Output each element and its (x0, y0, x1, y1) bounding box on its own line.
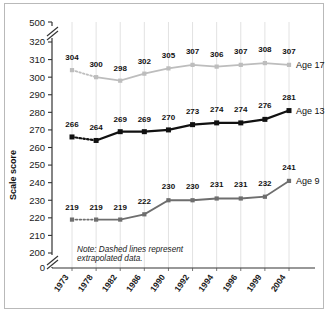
data-point-marker (70, 68, 74, 72)
data-point-marker (142, 212, 146, 216)
axis-break (47, 26, 58, 40)
y-tick-label-220: 220 (29, 212, 45, 223)
y-axis-title: Scale score (8, 150, 18, 200)
data-point-marker (118, 217, 122, 221)
data-point-label: 276 (258, 101, 272, 110)
data-point-marker (166, 127, 171, 132)
data-point-label: 300 (89, 60, 103, 69)
data-point-label: 304 (65, 53, 79, 62)
data-point-label: 230 (162, 182, 176, 191)
data-point-label: 231 (234, 180, 248, 189)
y-tick-label-310: 310 (29, 54, 45, 65)
y-tick-label-250: 250 (29, 159, 45, 170)
data-point-marker (118, 79, 122, 83)
line-chart: 2002102202302402502602702802903003103205… (0, 0, 330, 314)
data-point-label: 269 (114, 115, 128, 124)
data-point-label: 308 (258, 45, 272, 54)
data-point-marker (239, 63, 243, 67)
x-tick-label-1996: 1996 (220, 272, 239, 293)
x-tick-label-1986: 1986 (124, 272, 143, 293)
y-tick-label-300: 300 (29, 72, 45, 83)
data-point-marker (215, 196, 219, 200)
data-point-label: 305 (162, 51, 176, 60)
data-point-marker (190, 198, 194, 202)
series-dashed-segment (72, 70, 96, 77)
data-point-label: 281 (282, 93, 296, 102)
data-point-marker (142, 129, 147, 134)
y-tick-label-200: 200 (29, 247, 45, 258)
x-tick-label-1992: 1992 (172, 272, 191, 293)
chart-note-line-1: Note: Dashed lines represent (77, 245, 184, 254)
series-age-17: 304300298302305307306307308307Age 17 (65, 45, 324, 83)
data-point-marker (166, 198, 170, 202)
x-tick-label-1999: 1999 (244, 272, 263, 293)
data-point-marker (190, 122, 195, 127)
y-tick-label-320: 320 (29, 36, 45, 47)
data-point-marker (215, 65, 219, 69)
data-point-label: 302 (138, 57, 152, 66)
data-point-label: 306 (210, 50, 224, 59)
data-point-marker (287, 63, 291, 67)
y-tick-label-280: 280 (29, 107, 45, 118)
data-point-label: 274 (210, 105, 224, 114)
series-legend-label: Age 9 (296, 176, 320, 186)
y-tick-label-500: 500 (29, 17, 45, 28)
data-point-marker (94, 75, 98, 79)
y-tick-label-210: 210 (29, 230, 45, 241)
data-point-marker (287, 179, 291, 183)
data-point-label: 307 (234, 47, 248, 56)
data-point-label: 222 (138, 197, 152, 206)
axis-break (47, 255, 58, 269)
data-point-marker (214, 120, 219, 125)
data-point-label: 219 (114, 203, 128, 212)
data-point-label: 230 (186, 182, 200, 191)
data-point-marker (287, 108, 292, 113)
y-tick-label-270: 270 (29, 124, 45, 135)
y-tick-label-290: 290 (29, 89, 45, 100)
data-point-marker (94, 217, 98, 221)
data-point-marker (142, 72, 146, 76)
x-tick-label-1978: 1978 (76, 272, 95, 293)
data-point-marker (263, 195, 267, 199)
x-tick-label-1982: 1982 (100, 272, 119, 293)
data-point-label: 270 (162, 113, 176, 122)
data-point-label: 232 (258, 179, 272, 188)
x-tick-label-1973: 1973 (52, 272, 71, 293)
data-point-label: 274 (234, 105, 248, 114)
data-point-label: 219 (65, 203, 79, 212)
data-point-marker (263, 61, 267, 65)
series-age-13: 266264269269270273274274276281Age 13 (65, 93, 324, 143)
x-tick-label-1990: 1990 (148, 272, 167, 293)
data-point-marker (70, 217, 74, 221)
data-point-marker (239, 196, 243, 200)
x-tick-label-1994: 1994 (196, 272, 215, 293)
data-point-marker (238, 120, 243, 125)
data-point-label: 231 (210, 180, 224, 189)
series-dashed-segment (72, 137, 96, 141)
data-point-marker (166, 66, 170, 70)
data-point-marker (190, 63, 194, 67)
y-tick-label-0: 0 (40, 262, 45, 273)
y-tick-label-240: 240 (29, 177, 45, 188)
data-point-marker (94, 138, 99, 143)
chart-canvas: 2002102202302402502602702802903003103205… (0, 0, 330, 314)
data-point-marker (262, 117, 267, 122)
data-point-marker (118, 129, 123, 134)
data-point-label: 273 (186, 107, 200, 116)
data-point-marker (70, 134, 75, 139)
series-legend-label: Age 13 (296, 106, 325, 116)
data-point-label: 298 (114, 64, 128, 73)
chart-note-line-2: extrapolated data. (77, 254, 143, 263)
data-point-label: 219 (89, 203, 103, 212)
x-tick-label-2004: 2004 (269, 272, 288, 293)
series-legend-label: Age 17 (296, 60, 325, 70)
data-point-label: 266 (65, 120, 79, 129)
y-tick-label-260: 260 (29, 142, 45, 153)
data-point-label: 241 (282, 163, 296, 172)
data-point-label: 307 (186, 47, 200, 56)
data-point-label: 264 (89, 123, 103, 132)
data-point-label: 269 (138, 115, 152, 124)
data-point-label: 307 (282, 47, 296, 56)
y-tick-label-230: 230 (29, 195, 45, 206)
